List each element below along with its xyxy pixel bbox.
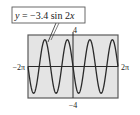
x-min-label: −2π [12, 63, 25, 72]
equation-x-var: x [69, 10, 75, 21]
graph-figure: −2π 2π 4 −4 y = −3.4 sin 2x [0, 0, 140, 115]
equation-label: y = −3.4 sin 2x [14, 10, 75, 21]
y-min-label: −4 [69, 101, 78, 110]
y-max-label: 4 [73, 26, 77, 35]
x-max-label: 2π [121, 63, 129, 72]
equation-body: = −3.4 sin 2 [19, 10, 69, 21]
